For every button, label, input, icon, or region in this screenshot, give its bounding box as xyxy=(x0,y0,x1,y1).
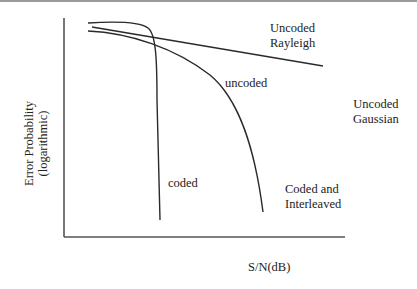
label-uncoded-rayleigh: Uncoded Rayleigh xyxy=(270,21,315,51)
label-line: Uncoded xyxy=(353,97,399,112)
label-coded: coded xyxy=(168,176,198,191)
label-line: Rayleigh xyxy=(270,36,315,51)
label-line: (logarithmic) xyxy=(36,101,50,186)
label-line: Uncoded xyxy=(270,21,315,36)
label-uncoded-gaussian: Uncoded Gaussian xyxy=(353,97,399,127)
label-line: Interleaved xyxy=(285,197,341,212)
label-coded-interleaved: Coded and Interleaved xyxy=(285,182,341,212)
curve-coded xyxy=(88,22,160,220)
label-line: Gaussian xyxy=(353,112,399,127)
label-uncoded: uncoded xyxy=(225,76,267,91)
x-axis-label: S/N(dB) xyxy=(248,260,290,275)
chart-plot-area xyxy=(0,0,417,289)
y-axis-label: Error Probability (logarithmic) xyxy=(22,101,50,186)
label-line: Error Probability xyxy=(22,101,36,186)
label-line: Coded and xyxy=(285,182,341,197)
